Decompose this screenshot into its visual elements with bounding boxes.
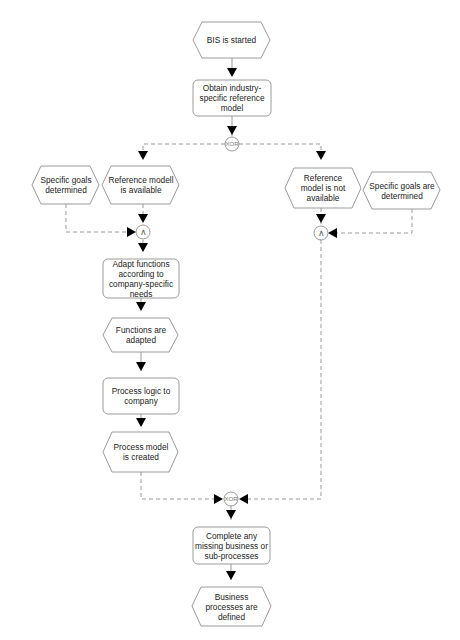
function-process-logic: Process logic to company [106, 378, 176, 414]
edge-xor-left [143, 144, 225, 160]
edge-goals-left-and [66, 204, 128, 232]
xor-split-label: XOR [225, 137, 239, 151]
and-right-label: ∧ [314, 226, 328, 240]
and-left-label: ∧ [136, 225, 150, 239]
event-functions-adapted: Functions are adapted [110, 318, 172, 352]
function-complete-missing-processes: Complete any missing business or sub-pro… [195, 527, 268, 564]
event-reference-model-not-available: Reference model is not available [293, 168, 353, 208]
edge-and-xorjoin [246, 240, 321, 499]
event-reference-model-available: Reference modell is available [106, 166, 176, 204]
event-specific-goals-determined-right: Specific goals are determined [368, 172, 436, 209]
event-business-processes-defined: Business processes are defined [200, 587, 263, 626]
xor-join-label: XOR [224, 492, 238, 506]
event-specific-goals-determined-left: Specific goals determined [40, 166, 92, 204]
edge-xor-right [239, 144, 321, 160]
edge-goals-right-and [336, 209, 412, 233]
event-bis-started: BIS is started [193, 22, 270, 58]
event-process-model-created: Process model is created [110, 432, 172, 472]
edge-model-xor [141, 472, 216, 499]
function-obtain-reference-model: Obtain industry-specific reference model [195, 80, 269, 116]
function-adapt-functions: Adapt functions according to company-spe… [104, 259, 178, 298]
